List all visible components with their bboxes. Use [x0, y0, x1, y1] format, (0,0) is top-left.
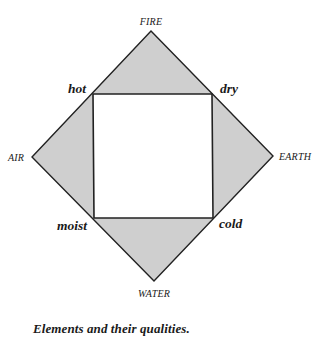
label-earth: EARTH [278, 151, 312, 162]
elements-qualities-diagram: FIRE AIR EARTH WATER hot dry moist cold [0, 0, 321, 340]
figure-caption: Elements and their qualities. [33, 321, 190, 337]
qualities-square [93, 94, 213, 218]
label-dry: dry [220, 81, 239, 96]
label-hot: hot [68, 81, 87, 96]
label-water: WATER [138, 288, 170, 299]
label-air: AIR [7, 152, 24, 163]
label-moist: moist [57, 218, 88, 233]
label-cold: cold [219, 216, 242, 231]
label-fire: FIRE [139, 16, 162, 27]
